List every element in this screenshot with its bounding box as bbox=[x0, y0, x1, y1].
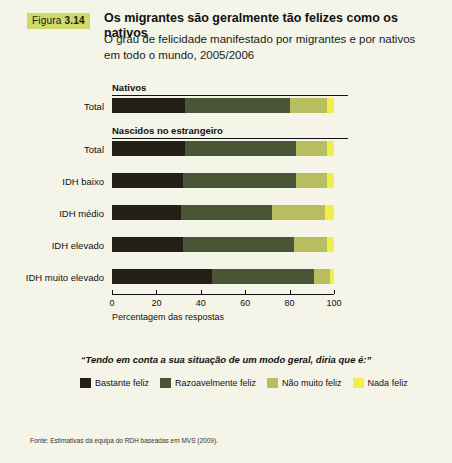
stacked-bar bbox=[112, 205, 334, 220]
x-axis-tick-label: 20 bbox=[141, 298, 171, 308]
bar-segment bbox=[296, 173, 327, 188]
legend-label: Razoavelmente feliz bbox=[175, 378, 256, 388]
bar-segment bbox=[325, 205, 334, 220]
group-rule-2 bbox=[112, 138, 348, 139]
x-axis-tick bbox=[245, 290, 246, 294]
legend-swatch bbox=[353, 378, 364, 388]
bar-row-label: IDH baixo bbox=[0, 176, 104, 187]
figure-subtitle: O grau de felicidade manifestado por mig… bbox=[104, 31, 434, 63]
legend-swatch bbox=[160, 378, 171, 388]
bar-segment bbox=[327, 141, 334, 156]
x-axis-line bbox=[112, 294, 334, 295]
bar-segment bbox=[327, 98, 334, 113]
group-label-1: Nativos bbox=[112, 82, 146, 93]
x-axis-tick-label: 100 bbox=[319, 298, 349, 308]
bar-segment bbox=[272, 205, 325, 220]
stacked-bar bbox=[112, 173, 334, 188]
bar-segment bbox=[183, 237, 294, 252]
x-axis-tick bbox=[156, 290, 157, 294]
bar-segment bbox=[327, 237, 334, 252]
stacked-bar bbox=[112, 237, 334, 252]
figure-panel: Figura 3.14 Os migrantes são geralmente … bbox=[0, 0, 452, 463]
x-axis-tick-label: 60 bbox=[230, 298, 260, 308]
bar-segment bbox=[330, 269, 334, 284]
bar-segment bbox=[185, 141, 296, 156]
bar-row-label: IDH muito elevado bbox=[0, 272, 104, 283]
bar-row-label: Total bbox=[0, 101, 104, 112]
legend-item: Bastante feliz bbox=[80, 378, 149, 388]
bar-segment bbox=[112, 173, 183, 188]
figure-number: 3.14 bbox=[65, 15, 85, 26]
bar-segment bbox=[212, 269, 314, 284]
stacked-bar bbox=[112, 141, 334, 156]
legend-swatch bbox=[80, 378, 91, 388]
x-axis-tick bbox=[112, 290, 113, 294]
bar-segment bbox=[112, 98, 185, 113]
x-axis-tick-label: 0 bbox=[97, 298, 127, 308]
bar-segment bbox=[181, 205, 272, 220]
bar-segment bbox=[112, 205, 181, 220]
bar-segment bbox=[183, 173, 296, 188]
bar-segment bbox=[314, 269, 330, 284]
legend-item: Razoavelmente feliz bbox=[160, 378, 256, 388]
bar-segment bbox=[294, 237, 327, 252]
legend-swatch bbox=[267, 378, 278, 388]
bar-segment bbox=[185, 98, 289, 113]
chart-plot-area: NativosNascidos no estrangeiroTotalTotal… bbox=[0, 80, 452, 340]
figure-badge: Figura 3.14 bbox=[27, 13, 90, 29]
bar-segment bbox=[296, 141, 327, 156]
x-axis-title: Percentagem das respostas bbox=[112, 312, 224, 322]
bar-row-label: IDH médio bbox=[0, 208, 104, 219]
bar-row-label: IDH elevado bbox=[0, 240, 104, 251]
legend-item: Nada feliz bbox=[353, 378, 408, 388]
chart-legend: Bastante felizRazoavelmente felizNão mui… bbox=[80, 378, 408, 388]
figure-word: Figura bbox=[32, 15, 62, 26]
stacked-bar bbox=[112, 98, 334, 113]
x-axis-tick-label: 80 bbox=[275, 298, 305, 308]
x-axis-tick bbox=[201, 290, 202, 294]
bar-segment bbox=[327, 173, 334, 188]
bar-segment bbox=[112, 237, 183, 252]
bar-segment bbox=[290, 98, 328, 113]
legend-question: “Tendo em conta a sua situação de um mod… bbox=[0, 354, 452, 365]
legend-label: Nada feliz bbox=[368, 378, 408, 388]
x-axis-tick bbox=[334, 290, 335, 294]
legend-label: Bastante feliz bbox=[95, 378, 149, 388]
legend-label: Não muito feliz bbox=[282, 378, 342, 388]
group-rule-1 bbox=[112, 95, 348, 96]
legend-item: Não muito feliz bbox=[267, 378, 342, 388]
x-axis-tick-label: 40 bbox=[186, 298, 216, 308]
bar-segment bbox=[112, 141, 185, 156]
bar-segment bbox=[112, 269, 212, 284]
x-axis-tick bbox=[290, 290, 291, 294]
group-label-2: Nascidos no estrangeiro bbox=[112, 125, 223, 136]
source-note: Fonte: Estimativas da equipa do RDH base… bbox=[30, 437, 218, 444]
bar-row-label: Total bbox=[0, 144, 104, 155]
stacked-bar bbox=[112, 269, 334, 284]
